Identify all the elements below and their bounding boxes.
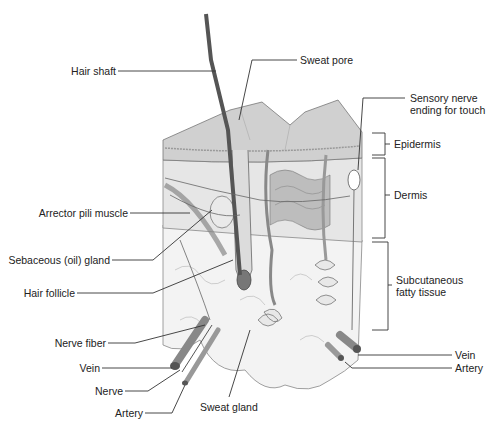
label-vein-right: Vein (455, 349, 475, 361)
label-sensory-nerve-2: ending for touch (410, 104, 485, 116)
label-dermis: Dermis (394, 189, 427, 201)
label-hair-shaft: Hair shaft (40, 65, 116, 77)
label-sebaceous-gland: Sebaceous (oil) gland (0, 254, 110, 266)
label-sweat-gland: Sweat gland (200, 401, 258, 413)
label-hair-follicle: Hair follicle (0, 287, 75, 299)
epidermis-layer (163, 100, 362, 162)
label-artery-right: Artery (455, 362, 483, 374)
label-nerve: Nerve (0, 385, 123, 397)
label-epidermis: Epidermis (394, 138, 441, 150)
label-sensory-nerve-1: Sensory nerve (410, 92, 478, 104)
touch-receptor (348, 170, 360, 190)
label-arrector-pili: Arrector pili muscle (0, 207, 128, 219)
label-sweat-pore: Sweat pore (300, 54, 353, 66)
subcutaneous-layer (163, 225, 362, 389)
sebaceous-gland (210, 196, 234, 228)
label-subcutaneous-1: Subcutaneous (396, 274, 463, 286)
label-subcutaneous-2: fatty tissue (396, 286, 446, 298)
label-nerve-fiber: Nerve fiber (0, 337, 106, 349)
label-artery-left: Artery (0, 407, 143, 419)
label-vein-left: Vein (0, 362, 100, 374)
